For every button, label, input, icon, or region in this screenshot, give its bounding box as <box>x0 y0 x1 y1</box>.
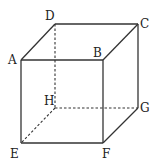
cube-diagram: A B C D E F G H <box>0 0 158 168</box>
edge-da <box>21 24 55 60</box>
vertex-label-a: A <box>7 53 17 67</box>
vertex-label-c: C <box>140 17 149 31</box>
edge-he-hidden <box>21 108 55 143</box>
vertex-label-f: F <box>102 147 110 161</box>
vertex-label-d: D <box>45 9 55 23</box>
vertex-label-e: E <box>10 147 19 161</box>
edge-bc <box>103 24 138 60</box>
vertex-label-g: G <box>140 101 150 115</box>
vertex-label-b: B <box>93 46 102 60</box>
edge-fg <box>103 108 138 143</box>
vertex-label-h: H <box>44 94 54 108</box>
